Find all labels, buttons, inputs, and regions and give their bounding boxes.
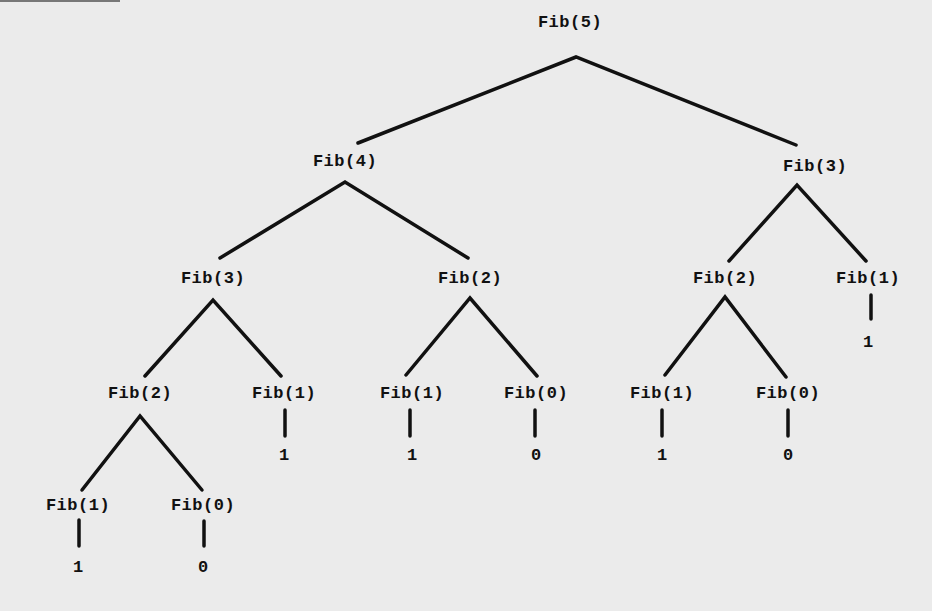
leaf-value: 1 [73,558,83,577]
tree-edges [0,0,932,611]
tree-node: Fib(5) [538,13,602,32]
tree-node: Fib(0) [171,496,235,515]
tree-node: Fib(2) [693,269,757,288]
tree-node: Fib(4) [313,152,377,171]
tree-node: Fib(1) [380,384,444,403]
tree-node: Fib(0) [756,384,820,403]
tree-node: Fib(1) [630,384,694,403]
leaf-value: 0 [783,446,793,465]
tree-node: Fib(2) [108,384,172,403]
tree-node: Fib(0) [504,384,568,403]
tree-node: Fib(1) [836,269,900,288]
tree-node: Fib(1) [252,384,316,403]
leaf-value: 0 [198,558,208,577]
tree-node: Fib(1) [46,496,110,515]
leaf-value: 1 [863,333,873,352]
leaf-value: 1 [279,446,289,465]
leaf-value: 0 [531,446,541,465]
tree-node: Fib(3) [783,157,847,176]
leaf-value: 1 [407,446,417,465]
leaf-value: 1 [657,446,667,465]
tree-node: Fib(2) [438,269,502,288]
tree-node: Fib(3) [181,269,245,288]
